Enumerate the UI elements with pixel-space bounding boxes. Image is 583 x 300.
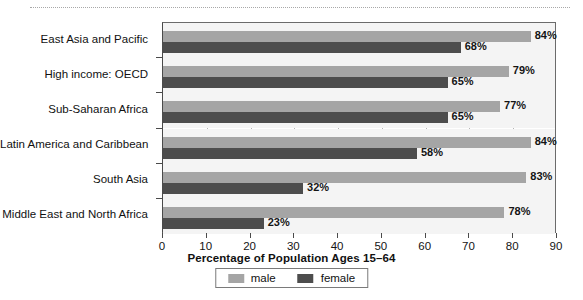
x-axis-tick [293,233,294,238]
x-axis-tick [250,233,251,238]
bar-female[interactable] [163,42,461,53]
bar-value-label-female: 65% [452,76,474,87]
bar-value-label-male: 84% [535,30,557,41]
chart-category-band: 83%32% [163,164,555,199]
x-axis-tick [206,233,207,238]
chart-category-band: 78%23% [163,199,555,234]
x-axis-title: Percentage of Population Ages 15–64 [0,252,583,264]
bar-female[interactable] [163,112,448,123]
chart-category-band: 84%58% [163,129,555,164]
y-axis-tick [156,92,162,93]
x-axis-tick [162,233,163,238]
x-axis-tick [337,233,338,238]
x-axis-tick-label: 40 [331,240,344,252]
x-axis-tick [425,233,426,238]
bar-male[interactable] [163,137,531,148]
chart-category-band: 79%65% [163,58,555,93]
x-axis-tick [556,233,557,238]
x-axis-tick-label: 10 [199,240,212,252]
legend-swatch-female [298,274,314,283]
bar-value-label-female: 23% [268,217,290,228]
bar-value-label-male: 78% [508,206,530,217]
legend-swatch-male [228,274,244,283]
x-axis-tick [381,233,382,238]
legend-item[interactable]: male [228,272,276,284]
bar-value-label-male: 83% [530,171,552,182]
x-axis-tick-label: 60 [418,240,431,252]
bar-value-label-male: 79% [513,65,535,76]
bar-value-label-female: 68% [465,41,487,52]
legend-label: female [321,272,356,284]
y-axis-tick [156,198,162,199]
bar-female[interactable] [163,77,448,88]
x-axis-tick-label: 70 [462,240,475,252]
chart-category-band: 77%65% [163,93,555,128]
bar-value-label-male: 77% [504,100,526,111]
category-label: South Asia [0,173,155,185]
y-axis-tick [156,163,162,164]
bar-female[interactable] [163,218,264,229]
x-axis-tick-label: 30 [287,240,300,252]
x-axis-tick-label: 20 [243,240,256,252]
x-axis-tick-label: 90 [550,240,563,252]
y-axis-tick [156,57,162,58]
labor-force-participation-bar-chart: East Asia and PacificHigh income: OECDSu… [0,0,583,300]
x-axis-tick-label: 0 [159,240,165,252]
x-axis-tick [512,233,513,238]
plot-area: 84%68%79%65%77%65%84%58%83%32%78%23% [162,22,556,233]
bar-value-label-male: 84% [535,136,557,147]
bar-value-label-female: 58% [421,147,443,158]
category-label: Middle East and North Africa [0,208,155,220]
bar-female[interactable] [163,183,303,194]
chart-legend: malefemale [215,268,368,288]
bar-male[interactable] [163,172,526,183]
category-label: Sub-Saharan Africa [0,103,155,115]
category-label: Latin America and Caribbean [0,138,155,150]
bar-value-label-female: 32% [307,182,329,193]
bar-male[interactable] [163,207,504,218]
category-axis-labels: East Asia and PacificHigh income: OECDSu… [0,22,155,233]
bar-male[interactable] [163,101,500,112]
chart-category-band: 84%68% [163,23,555,58]
category-label: High income: OECD [0,68,155,80]
bar-value-label-female: 65% [452,111,474,122]
x-axis-tick-label: 80 [506,240,519,252]
bar-female[interactable] [163,148,417,159]
x-axis-tick-label: 50 [374,240,387,252]
legend-item[interactable]: female [298,272,356,284]
y-axis-tick [156,128,162,129]
category-label: East Asia and Pacific [0,33,155,45]
x-axis-tick [468,233,469,238]
legend-label: male [251,272,276,284]
